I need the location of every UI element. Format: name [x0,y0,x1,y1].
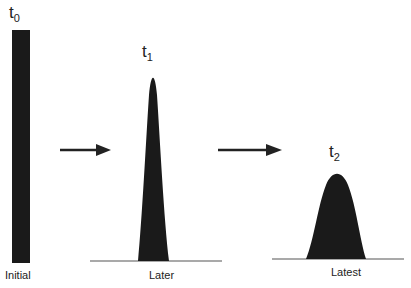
peak-later [138,78,169,261]
right-arrow-icon [218,144,282,156]
initial-bar [12,30,30,263]
peak-latest [306,174,366,259]
right-arrow-icon [60,144,111,156]
time-label-t0: t0 [9,4,20,24]
caption-latest: Latest [331,266,361,278]
time-label-t2: t2 [329,143,340,163]
caption-initial: Initial [5,269,31,281]
caption-later: Later [149,269,174,281]
time-label-t1: t1 [142,43,153,63]
diffusion-diagram [0,0,411,288]
